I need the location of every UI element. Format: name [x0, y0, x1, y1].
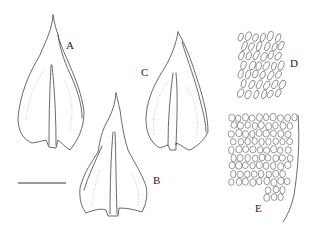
cell: [271, 62, 278, 71]
cell: [229, 179, 235, 185]
cell: [245, 154, 250, 162]
cell: [237, 32, 244, 42]
cell: [229, 114, 235, 121]
cell: [241, 41, 249, 52]
cell: [273, 138, 279, 144]
cell: [270, 113, 276, 120]
cell: [266, 171, 271, 178]
cell: [274, 88, 282, 98]
cell: [263, 130, 269, 137]
cell: [240, 79, 247, 89]
cell: [255, 61, 263, 71]
cell: [252, 50, 261, 61]
cell: [259, 32, 267, 42]
cell: [252, 122, 257, 129]
cell: [251, 171, 257, 178]
panel-label-c: C: [141, 67, 148, 78]
cell: [242, 131, 248, 138]
cell: [273, 186, 279, 193]
cell: [278, 79, 287, 90]
cell: [277, 115, 283, 122]
cell: [236, 162, 242, 170]
cell: [264, 194, 270, 201]
cell: [250, 179, 256, 186]
cell: [249, 115, 255, 121]
cell: [237, 122, 243, 129]
cell: [280, 171, 286, 178]
cell: [270, 130, 276, 136]
cell: [267, 50, 274, 60]
cell: [285, 161, 291, 168]
cell: [285, 114, 291, 121]
cell: [265, 187, 271, 194]
cell: [260, 51, 269, 62]
cell: [255, 79, 263, 90]
leaf-b-drawing: [80, 93, 147, 216]
cell: [259, 138, 264, 145]
cell: [240, 60, 247, 70]
cell: [278, 178, 284, 185]
cell: [251, 33, 259, 43]
cell: [231, 170, 236, 177]
cell: [245, 51, 252, 61]
cell: [236, 88, 245, 99]
cell: [278, 163, 284, 170]
cell: [270, 79, 279, 90]
cell: [266, 31, 274, 42]
cell: [285, 131, 291, 138]
cell: [236, 129, 242, 137]
cell: [250, 130, 255, 137]
leaf-a-drawing: [18, 15, 84, 150]
cell: [274, 70, 282, 79]
cell: [280, 138, 285, 145]
cell: [263, 114, 268, 121]
cell: [273, 122, 279, 129]
cell: [277, 60, 285, 71]
cell: [262, 61, 271, 72]
cell: [273, 155, 279, 162]
cell: [250, 146, 256, 153]
cell: [231, 139, 236, 145]
cell: [270, 162, 275, 169]
cell: [245, 122, 250, 129]
cell: [271, 42, 278, 52]
plate-drawing: [0, 0, 316, 232]
cell: [248, 79, 257, 89]
leaf-c-drawing: [146, 32, 208, 150]
cell: [271, 146, 277, 153]
cell: [235, 115, 241, 121]
cell: [243, 146, 249, 152]
cell: [278, 147, 283, 154]
cell: [263, 162, 269, 169]
cell: [253, 90, 260, 100]
cell: [273, 170, 279, 177]
cell: [265, 155, 271, 161]
cell: [287, 155, 293, 162]
cell: [252, 155, 258, 162]
cell: [245, 171, 250, 178]
cell: [266, 89, 274, 98]
cell: [229, 162, 235, 169]
cell: [237, 51, 245, 61]
panel-label-e: E: [255, 203, 262, 214]
cell: [292, 114, 297, 121]
cell: [252, 138, 257, 145]
panel-label-a: A: [66, 40, 74, 51]
cell: [287, 138, 293, 144]
cell: [260, 89, 267, 99]
cell: [287, 123, 292, 130]
cell: [263, 41, 271, 51]
cell: [259, 70, 267, 79]
cell: [256, 161, 262, 168]
cell: [266, 70, 275, 81]
cell: [284, 178, 290, 185]
cell: [280, 186, 285, 194]
cell: [247, 42, 255, 52]
cell: [262, 80, 271, 90]
cell: [238, 139, 244, 146]
cell: [237, 171, 243, 178]
cell: [248, 60, 256, 71]
cell: [228, 131, 234, 138]
cell: [257, 147, 262, 153]
cell: [259, 154, 265, 161]
